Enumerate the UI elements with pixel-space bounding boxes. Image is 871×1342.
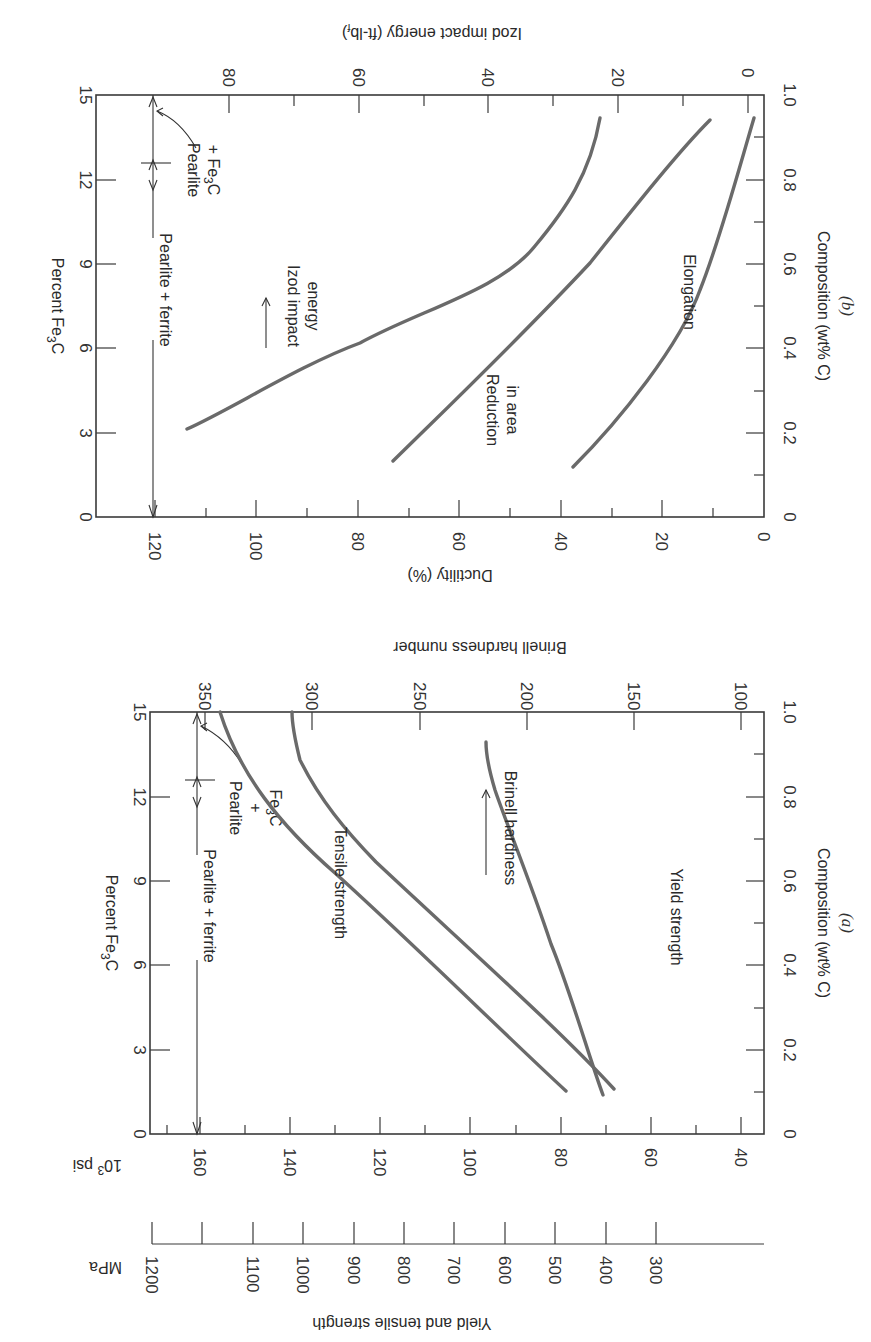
svg-text:500: 500 — [545, 1256, 564, 1284]
svg-text:20: 20 — [608, 68, 627, 87]
svg-text:40: 40 — [731, 1148, 750, 1167]
label-yield-strength: Yield strength — [668, 868, 685, 965]
svg-text:0.6: 0.6 — [780, 869, 799, 893]
svg-text:80: 80 — [551, 1148, 570, 1167]
panel-a-region-label-pearlite: Pearlite — [227, 781, 244, 835]
svg-text:60: 60 — [349, 68, 368, 87]
panel-a-brinell-ticks — [205, 712, 741, 730]
panel-b-ductility-label: Ductility (%) — [407, 567, 492, 584]
svg-text:140: 140 — [280, 1148, 299, 1176]
panel-a-mpa-axis — [152, 1222, 764, 1244]
svg-text:0.8: 0.8 — [780, 785, 799, 809]
panel-a-brinell-tick-labels: 100 150 200 250 300 350 — [195, 682, 750, 710]
panel-a-region-label-plus: + — [247, 803, 264, 812]
panel-a-composition-ticks — [746, 754, 764, 1092]
svg-text:15: 15 — [76, 86, 95, 105]
svg-text:300: 300 — [646, 1256, 665, 1284]
svg-text:9: 9 — [76, 259, 95, 268]
svg-text:350: 350 — [195, 682, 214, 710]
svg-text:0.6: 0.6 — [780, 252, 799, 276]
svg-text:300: 300 — [302, 682, 321, 710]
label-elongation: Elongation — [681, 254, 698, 330]
curve-tensile-strength — [220, 712, 566, 1091]
panel-b-xlabel: Composition (wt% C) — [815, 231, 832, 381]
svg-text:0.2: 0.2 — [780, 1038, 799, 1062]
svg-text:60: 60 — [449, 532, 468, 551]
panel-a-caption: (a) — [838, 913, 857, 933]
label-brinell-hardness: Brinell hardness — [502, 771, 519, 886]
panel-a-mpa-unit: MPa — [89, 1259, 122, 1276]
svg-text:900: 900 — [344, 1256, 363, 1284]
svg-text:120: 120 — [370, 1148, 389, 1176]
svg-text:160: 160 — [190, 1148, 209, 1176]
panel-b-composition-tick-labels: 0 0.2 0.4 0.6 0.8 1.0 — [780, 83, 799, 522]
svg-text:0.8: 0.8 — [780, 168, 799, 192]
svg-text:0.2: 0.2 — [780, 421, 799, 445]
panel-a-brinell-label: Brinell hardness number — [393, 639, 567, 656]
svg-text:120: 120 — [145, 532, 164, 560]
panel-b-fe3c-ticks — [96, 180, 116, 433]
svg-text:0: 0 — [754, 532, 773, 541]
svg-text:12: 12 — [130, 788, 149, 807]
panel-b-fe3c-tick-labels: 0 3 6 9 12 15 — [76, 86, 95, 522]
svg-text:150: 150 — [624, 682, 643, 710]
svg-text:20: 20 — [652, 532, 671, 551]
svg-text:1200: 1200 — [142, 1256, 161, 1294]
panel-b-izod-ticks — [229, 95, 748, 113]
label-izod-energy: energy — [305, 282, 322, 331]
panel-b-caption: (b) — [838, 296, 857, 316]
panel-b-region-label-pearlite-ferrite: Pearlite + ferrite — [157, 233, 174, 346]
svg-text:60: 60 — [641, 1148, 660, 1167]
svg-text:0.4: 0.4 — [780, 953, 799, 977]
svg-text:0.4: 0.4 — [780, 336, 799, 360]
svg-text:80: 80 — [219, 68, 238, 87]
svg-text:1100: 1100 — [243, 1256, 262, 1293]
label-tensile-strength: Tensile strength — [332, 827, 349, 939]
panel-b-izod-tick-labels: 0 20 40 60 80 — [219, 68, 757, 87]
svg-text:1.0: 1.0 — [780, 83, 799, 107]
svg-text:400: 400 — [596, 1256, 615, 1284]
svg-text:250: 250 — [410, 682, 429, 710]
svg-text:3: 3 — [130, 1045, 149, 1054]
svg-text:6: 6 — [130, 960, 149, 969]
svg-text:0: 0 — [780, 1129, 799, 1138]
label-in-area: in area — [504, 386, 521, 435]
panel-b-izod-label: Izod impact energy (ft-lbf) — [342, 22, 522, 42]
panel-b-region-label-fe3c: + Fe3C — [201, 145, 222, 196]
svg-text:15: 15 — [130, 703, 149, 722]
svg-text:600: 600 — [495, 1256, 514, 1284]
svg-text:0: 0 — [130, 1129, 149, 1138]
panel-a-xlabel: Composition (wt% C) — [815, 848, 832, 998]
panel-a-fe3c-ticks — [150, 797, 170, 1050]
svg-text:1.0: 1.0 — [780, 700, 799, 724]
svg-text:100: 100 — [460, 1148, 479, 1176]
panel-a-psi-ticks — [167, 1117, 741, 1134]
svg-text:0: 0 — [76, 512, 95, 521]
panel-a-psi-unit: 103 psi — [73, 1157, 122, 1177]
svg-text:12: 12 — [76, 171, 95, 190]
svg-text:100: 100 — [731, 682, 750, 710]
curve-izod-impact-energy — [187, 118, 600, 429]
panel-b: 0 0.2 0.4 0.6 0.8 1.0 Composition (wt% C… — [44, 22, 857, 584]
panel-b-ductility-tick-labels: 0 20 40 60 80 100 120 — [145, 532, 773, 560]
panel-a-strength-label: Yield and tensile strength — [312, 1315, 491, 1332]
svg-text:40: 40 — [478, 68, 497, 87]
panel-a-psi-tick-labels: 40 60 80 100 120 140 160 — [190, 1148, 750, 1176]
svg-text:40: 40 — [551, 532, 570, 551]
panel-b-ductility-ticks — [155, 500, 713, 517]
panel-a-mpa-tick-labels: 300 400 500 600 700 800 900 1000 1100 12… — [142, 1256, 665, 1294]
svg-text:6: 6 — [76, 343, 95, 352]
svg-text:200: 200 — [517, 682, 536, 710]
svg-text:1000: 1000 — [293, 1256, 312, 1294]
panel-b-fe3c-label: Percent Fe3C — [44, 258, 66, 355]
panel-a-composition-tick-labels: 0 0.2 0.4 0.6 0.8 1.0 — [780, 700, 799, 1139]
svg-text:9: 9 — [130, 876, 149, 885]
panel-a-region-label-pearlite-ferrite: Pearlite + ferrite — [201, 849, 218, 962]
svg-text:80: 80 — [348, 532, 367, 551]
svg-text:0: 0 — [738, 68, 757, 77]
svg-text:700: 700 — [444, 1256, 463, 1284]
curve-reduction-in-area — [393, 120, 710, 461]
svg-text:100: 100 — [246, 532, 265, 560]
svg-text:800: 800 — [394, 1256, 413, 1284]
panel-a-fe3c-tick-labels: 0 3 6 9 12 15 — [130, 703, 149, 1139]
